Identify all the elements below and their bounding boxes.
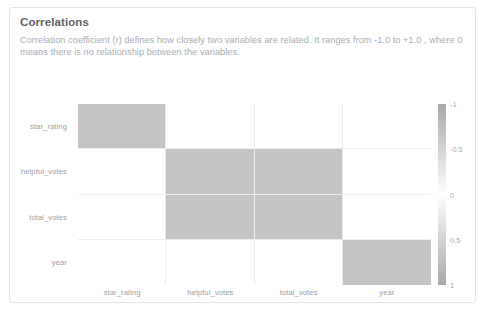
heatmap-cell — [78, 104, 166, 149]
colorbar-tick: 0.5 — [450, 235, 460, 244]
heatmap-column-axis: star_rating helpful_votes total_votes ye… — [78, 288, 431, 302]
heatmap-cell — [343, 240, 431, 285]
colorbar-gradient — [438, 104, 446, 285]
heatmap-cell — [255, 149, 343, 194]
heatmap-cell — [255, 104, 343, 149]
correlation-heatmap-chart: star_rating helpful_votes total_votes ye… — [10, 90, 477, 302]
correlations-card: Correlations Correlation coefficient (r)… — [9, 7, 476, 303]
heatmap-row-axis: star_rating helpful_votes total_votes ye… — [10, 104, 72, 285]
page-title: Correlations — [20, 16, 89, 28]
heatmap-cell — [166, 149, 254, 194]
heatmap-cell — [166, 195, 254, 240]
heatmap-cell — [78, 240, 166, 285]
row-label-year: year — [10, 240, 72, 285]
column-label-total-votes: total_votes — [255, 288, 343, 302]
column-label-star-rating: star_rating — [78, 288, 166, 302]
heatmap-grid — [78, 104, 431, 285]
colorbar-tick: 1 — [450, 281, 454, 290]
heatmap-cell — [78, 195, 166, 240]
heatmap-cell — [78, 149, 166, 194]
heatmap-cell — [166, 240, 254, 285]
column-label-year: year — [343, 288, 431, 302]
colorbar-tick: 0 — [450, 190, 454, 199]
heatmap-cell — [166, 104, 254, 149]
heatmap-cell — [343, 195, 431, 240]
heatmap-cell — [343, 149, 431, 194]
heatmap-cell — [255, 195, 343, 240]
card-description: Correlation coefficient (r) defines how … — [20, 34, 468, 58]
row-label-helpful-votes: helpful_votes — [10, 149, 72, 194]
row-label-total-votes: total_votes — [10, 195, 72, 240]
column-label-helpful-votes: helpful_votes — [166, 288, 254, 302]
colorbar-tick-labels: -1-0.500.51 — [450, 104, 476, 285]
row-label-star-rating: star_rating — [10, 104, 72, 149]
heatmap-cell — [255, 240, 343, 285]
colorbar-tick: -1 — [450, 100, 457, 109]
colorbar-tick: -0.5 — [450, 145, 463, 154]
heatmap-cell — [343, 104, 431, 149]
